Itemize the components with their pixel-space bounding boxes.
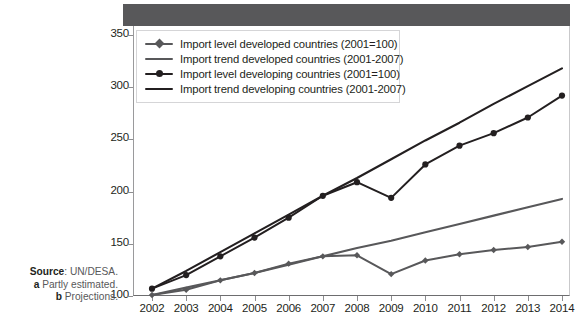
legend-swatch-developing-level <box>145 68 173 80</box>
x-axis-tick <box>494 296 495 301</box>
chart-page: 100150200250300350 200220032004200520062… <box>0 0 586 328</box>
legend-item-developed-level[interactable]: Import level developed countries (2001=1… <box>145 36 391 51</box>
chart-legend: Import level developed countries (2001=1… <box>136 30 400 103</box>
source-line: Source: UN/DESA. <box>0 266 118 279</box>
x-axis-tick <box>357 296 358 301</box>
legend-item-developing-trend[interactable]: Import trend developing countries (2001-… <box>145 81 391 96</box>
legend-item-developing-level[interactable]: Import level developing countries (2001=… <box>145 66 391 81</box>
source-note: Source: UN/DESA. a Partly estimated. b P… <box>0 266 118 304</box>
x-axis-tick <box>186 296 187 301</box>
x-axis-tick <box>289 296 290 301</box>
legend-swatch-developing-trend <box>145 83 173 95</box>
x-axis-tick <box>152 296 153 301</box>
x-axis-tick <box>220 296 221 301</box>
footnote-b: b Projections. <box>0 291 118 304</box>
legend-label-developed-trend: Import trend developed countries (2001-2… <box>180 53 403 65</box>
y-axis-tick <box>127 296 133 297</box>
legend-label-developed-level: Import level developed countries (2001=1… <box>180 38 397 50</box>
legend-item-developed-trend[interactable]: Import trend developed countries (2001-2… <box>145 51 391 66</box>
x-axis-tick-label: 2014 <box>542 302 582 314</box>
y-axis-tick <box>127 244 133 245</box>
y-axis-tick <box>127 35 133 36</box>
footnote-a-text: Partly estimated. <box>39 279 118 290</box>
x-axis-tick <box>391 296 392 301</box>
source-label: Source <box>30 266 65 277</box>
legend-swatch-developed-trend <box>145 53 173 65</box>
legend-swatch-developed-level <box>145 38 173 50</box>
x-axis-tick <box>528 296 529 301</box>
legend-label-developing-trend: Import trend developing countries (2001-… <box>180 83 406 95</box>
x-axis-tick <box>323 296 324 301</box>
x-axis-tick <box>460 296 461 301</box>
x-axis-tick <box>562 296 563 301</box>
x-axis-tick <box>255 296 256 301</box>
y-axis-tick <box>127 139 133 140</box>
legend-label-developing-level: Import level developing countries (2001=… <box>180 68 400 80</box>
footnote-a: a Partly estimated. <box>0 279 118 292</box>
y-axis-tick <box>127 87 133 88</box>
footnote-b-text: Projections. <box>62 291 118 302</box>
y-axis-tick <box>127 192 133 193</box>
x-axis-tick <box>425 296 426 301</box>
source-value: : UN/DESA. <box>64 266 118 277</box>
